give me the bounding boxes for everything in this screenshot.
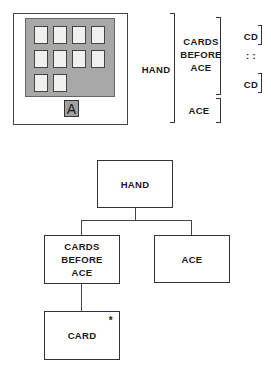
card-table-picture: A [13, 13, 128, 125]
bracket-ace-label: ACE [186, 104, 212, 117]
bracket-hand [170, 13, 175, 123]
connector-right-down [191, 220, 192, 235]
bracket-card-bottom-line [258, 73, 262, 93]
face-down-card [53, 50, 67, 68]
tree-node-card: CARD * [44, 311, 120, 360]
ace-card: A [64, 100, 79, 117]
face-down-card [34, 26, 48, 44]
bracket-group [216, 17, 221, 95]
tree-node-ace: ACE [154, 235, 230, 283]
connector-left-down [81, 220, 82, 235]
face-down-card [91, 50, 105, 68]
connector-left-child [81, 284, 82, 311]
face-down-card [34, 50, 48, 68]
tree-node-cards-before-ace: CARDS BEFORE ACE [44, 235, 120, 284]
connector-horizontal [81, 220, 192, 221]
bracket-ace [216, 98, 221, 123]
face-down-card [34, 74, 48, 92]
face-down-card [53, 74, 67, 92]
face-down-card [72, 26, 86, 44]
bracket-ellipsis: : : [240, 52, 262, 60]
face-down-card [72, 50, 86, 68]
bracket-root-label: HAND [140, 63, 172, 76]
face-down-card [53, 26, 67, 44]
iteration-mark-icon: * [109, 314, 113, 327]
tree-node-hand: HAND [97, 160, 173, 208]
face-down-card [91, 26, 105, 44]
bracket-card-top-line [258, 25, 262, 45]
ace-label: A [67, 101, 76, 117]
connector-root-down [135, 208, 136, 220]
